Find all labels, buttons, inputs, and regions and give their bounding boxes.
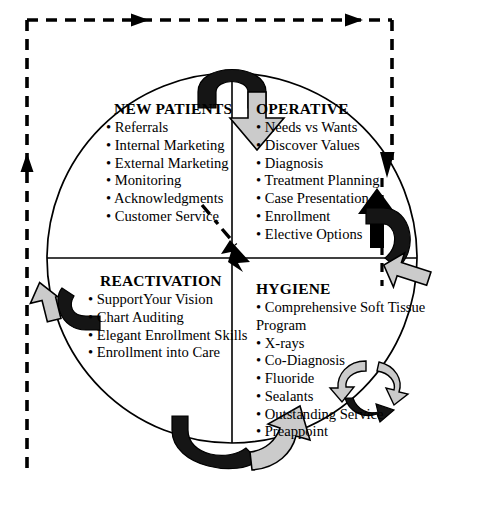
list-item: • Outstanding Service [256,406,425,424]
list-item: • Monitoring [106,172,232,190]
list-item: • Preappoint [256,423,425,441]
list-item: • Needs vs Wants [256,119,379,137]
list-item: • Referrals [106,119,232,137]
list-item: • Enrollment [256,208,379,226]
quadrant-title-operative: OPERATIVE [256,100,379,118]
list-item: • Internal Marketing [106,137,232,155]
list-item: • Sealants [256,388,425,406]
list-item: • External Marketing [106,155,232,173]
list-item: • Chart Auditing [88,309,248,327]
list-item: • SupportYour Vision [88,291,248,309]
quadrant-new-patients: NEW PATIENTS • Referrals • Internal Mark… [106,100,232,226]
quadrant-operative: OPERATIVE • Needs vs Wants • Discover Va… [256,100,379,243]
list-item: • Fluoride [256,370,425,388]
list-item: • X-rays [256,335,425,353]
list-item: • Co-Diagnosis [256,352,425,370]
list-item-continuation: Program [256,317,425,335]
quadrant-list-reactivation: • SupportYour Vision • Chart Auditing • … [88,291,248,362]
list-item: • Treatment Planning [256,172,379,190]
quadrant-reactivation: REACTIVATION • SupportYour Vision • Char… [88,272,248,362]
quadrant-title-reactivation: REACTIVATION [88,272,248,290]
diagram-canvas: NEW PATIENTS • Referrals • Internal Mark… [0,0,479,512]
list-item: • Acknowledgments [106,190,232,208]
list-item: • Diagnosis [256,155,379,173]
quadrant-list-hygiene: • Comprehensive Soft Tissue Program • X-… [256,299,425,441]
quadrant-list-new-patients: • Referrals • Internal Marketing • Exter… [106,119,232,225]
quadrant-list-operative: • Needs vs Wants • Discover Values • Dia… [256,119,379,243]
list-item: • Elective Options [256,226,379,244]
list-item: • Enrollment into Care [88,344,248,362]
quadrant-hygiene: HYGIENE • Comprehensive Soft Tissue Prog… [256,280,425,441]
list-item: • Customer Service [106,208,232,226]
list-item: • Discover Values [256,137,379,155]
list-item: • Case Presentation [256,190,379,208]
quadrant-title-hygiene: HYGIENE [256,280,425,298]
list-item: • Elegant Enrollment Skills [88,327,248,345]
quadrant-title-new-patients: NEW PATIENTS [106,100,232,118]
list-item: • Comprehensive Soft Tissue [256,299,425,317]
